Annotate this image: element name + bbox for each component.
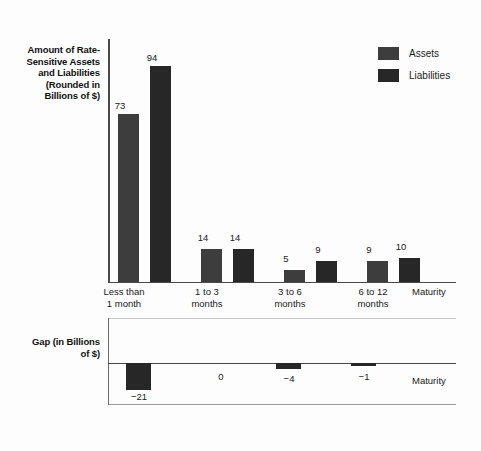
gap-value-label-1-to-3-months: 0 [200, 371, 242, 382]
gap-value-label-6-to-12-months: −1 [343, 371, 385, 382]
gap-value-label-less-than-1-month: −21 [118, 391, 160, 402]
gap-chart-top-border [108, 318, 456, 319]
gap-chart-x-axis-title: Maturity [412, 375, 446, 386]
gap-bar-6-to-12-months [351, 363, 376, 366]
figure-container: Amount of Rate-Sensitive Assets and Liab… [0, 0, 481, 451]
gap-chart-y-axis-line [108, 318, 109, 405]
gap-bar-less-than-1-month [126, 363, 151, 390]
gap-chart-y-axis-title: Gap (in Billions of $) [24, 336, 100, 359]
gap-bar-3-to-6-months [276, 363, 301, 369]
gap-value-label-3-to-6-months: −4 [268, 373, 310, 384]
gap-bar-chart: Gap (in Billions of $) −21 0 −4 −1 Matur… [0, 0, 481, 451]
gap-chart-bottom-border [108, 404, 456, 405]
